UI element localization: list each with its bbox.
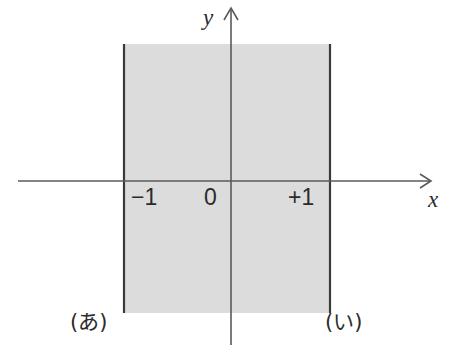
- annotation-right-marker: (い): [325, 312, 362, 333]
- figure-canvas: y x −1 0 +1 (あ) (い): [0, 0, 451, 355]
- y-axis-label: y: [203, 6, 213, 29]
- tick-label-minus-one: −1: [131, 186, 157, 209]
- tick-label-zero: 0: [204, 186, 217, 209]
- coordinate-plane-graphic: [0, 0, 451, 355]
- annotation-left-marker: (あ): [70, 312, 107, 333]
- x-axis-label: x: [428, 188, 438, 211]
- shaded-region: [124, 44, 331, 313]
- tick-label-plus-one: +1: [288, 186, 314, 209]
